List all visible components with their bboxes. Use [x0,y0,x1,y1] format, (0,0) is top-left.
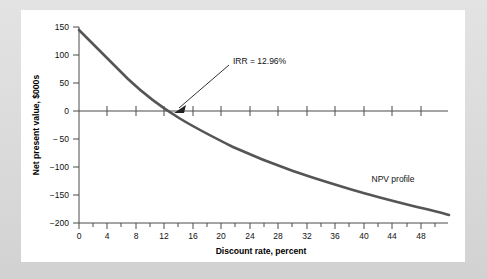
y-axis-title: Net present value, $000s [31,75,41,176]
x-tick-label: 40 [359,231,369,241]
x-tick-label: 16 [188,231,198,241]
y-tick-label: 100 [55,50,69,60]
x-axis-title: Discount rate, percent [216,246,307,256]
x-tick-label: 36 [330,231,340,241]
x-tick-label: 32 [302,231,312,241]
chart-panel: 150 100 50 0 − 50 −100 −150 −200 Net pre… [21,10,465,262]
irr-annotation: IRR = 12.96% [174,56,287,113]
x-axis-major-ticks [79,223,421,229]
y-tick-label: −200 [50,218,69,228]
irr-arrowhead [174,105,186,113]
x-tick-label: 8 [134,231,139,241]
x-tick-label: 20 [216,231,226,241]
x-tick-label: 4 [105,231,110,241]
irr-leader-line [179,65,229,108]
x-tick-label: 24 [245,231,255,241]
series-label-npv-profile: NPV profile [372,174,415,184]
x-tick-label: 12 [159,231,169,241]
figure-frame: 150 100 50 0 − 50 −100 −150 −200 Net pre… [0,0,487,279]
npv-profile-chart: 150 100 50 0 − 50 −100 −150 −200 Net pre… [21,10,465,262]
y-tick-label: −100 [50,162,69,172]
y-tick-label: 0 [64,106,69,116]
x-axis-tick-labels: 0 4 8 12 16 20 24 28 32 36 40 44 48 [77,231,426,241]
y-tick-label: 150 [55,22,69,32]
y-tick-label: − 50 [53,134,69,144]
y-axis-tick-labels: 150 100 50 0 − 50 −100 −150 −200 [50,22,69,228]
x-tick-label: 44 [387,231,397,241]
x-axis-minor-ticks [93,223,435,227]
y-tick-label: 50 [60,78,70,88]
x-tick-label: 48 [416,231,426,241]
x-tick-label: 28 [273,231,283,241]
y-axis-ticks [73,27,79,223]
irr-annotation-label: IRR = 12.96% [233,56,287,66]
x-tick-label: 0 [77,231,82,241]
y-tick-label: −150 [50,190,69,200]
